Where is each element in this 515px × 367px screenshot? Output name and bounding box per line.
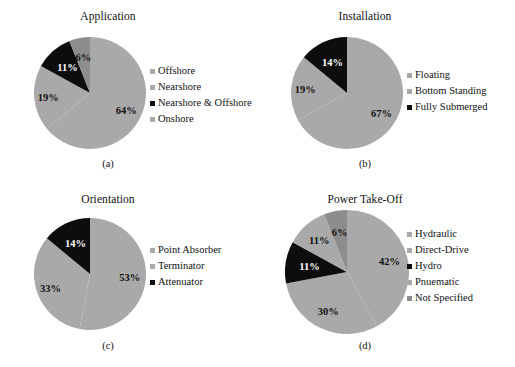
- pie-slice-label: 11%: [299, 261, 319, 272]
- pie-svg-c: 53%33%14%: [34, 217, 146, 331]
- pie-chart-c: 53%33%14%: [34, 217, 146, 331]
- legend-item-label: Nearshore: [158, 82, 201, 93]
- legend-item-label: Onshore: [158, 114, 194, 125]
- figure-grid: Application 64%19%11%6% OffshoreNearshor…: [0, 0, 515, 367]
- pie-slice-label: 14%: [322, 57, 343, 68]
- legend-item-label: Hydro: [415, 261, 442, 272]
- legend-item-label: Hydraulic: [415, 229, 457, 240]
- pie-chart-d: 42%30%11%11%6%: [285, 209, 409, 335]
- legend-swatch-icon: [407, 89, 412, 94]
- pie-slice-label: 6%: [75, 52, 91, 63]
- legend-c: Point AbsorberTerminatorAttenuator: [150, 245, 221, 288]
- legend-item[interactable]: Attenuator: [150, 277, 221, 288]
- legend-item-label: Pnuematic: [415, 277, 459, 288]
- legend-item-label: Fully Submerged: [415, 102, 487, 113]
- legend-swatch-icon: [150, 101, 155, 106]
- legend-item[interactable]: Not Specified: [407, 293, 473, 304]
- pie-slice-label: 11%: [57, 62, 77, 73]
- legend-item-label: Not Specified: [415, 293, 473, 304]
- legend-item-label: Bottom Standing: [415, 86, 486, 97]
- pie-svg-a: 64%19%11%6%: [34, 36, 146, 150]
- legend-item[interactable]: Nearshore: [150, 82, 252, 93]
- pie-panel-a: Application 64%19%11%6% OffshoreNearshor…: [0, 0, 255, 185]
- legend-item-label: Point Absorber: [158, 245, 221, 256]
- legend-item[interactable]: Bottom Standing: [407, 86, 487, 97]
- legend-swatch-icon: [150, 85, 155, 90]
- legend-swatch-icon: [407, 232, 412, 237]
- pie-chart-a: 64%19%11%6%: [34, 36, 146, 150]
- chart-caption-c: (c): [28, 340, 188, 351]
- legend-swatch-icon: [150, 280, 155, 285]
- legend-item[interactable]: Terminator: [150, 261, 221, 272]
- legend-item-label: Terminator: [158, 261, 205, 272]
- chart-caption-b: (b): [285, 158, 445, 169]
- pie-chart-b: 67%19%14%: [291, 36, 403, 150]
- pie-svg-b: 67%19%14%: [291, 36, 403, 150]
- pie-panel-b: Installation 67%19%14% FloatingBottom St…: [255, 0, 515, 185]
- chart-title-b: Installation: [285, 10, 445, 22]
- legend-item[interactable]: Offshore: [150, 66, 252, 77]
- pie-slice-label: 64%: [116, 105, 137, 116]
- chart-title-d: Power Take-Off: [285, 193, 445, 205]
- legend-swatch-icon: [407, 248, 412, 253]
- legend-swatch-icon: [150, 117, 155, 122]
- legend-item[interactable]: Direct-Drive: [407, 245, 473, 256]
- pie-panel-c: Orientation 53%33%14% Point AbsorberTerm…: [0, 185, 255, 367]
- legend-swatch-icon: [407, 264, 412, 269]
- legend-swatch-icon: [407, 105, 412, 110]
- legend-item-label: Nearshore & Offshore: [158, 98, 252, 109]
- legend-item-label: Floating: [415, 70, 450, 81]
- legend-item[interactable]: Hydro: [407, 261, 473, 272]
- chart-caption-a: (a): [28, 158, 188, 169]
- legend-item-label: Offshore: [158, 66, 195, 77]
- pie-panel-d: Power Take-Off 42%30%11%11%6% HydraulicD…: [255, 185, 515, 367]
- legend-item-label: Attenuator: [158, 277, 203, 288]
- pie-slice-label: 33%: [40, 283, 61, 294]
- pie-svg-d: 42%30%11%11%6%: [285, 209, 409, 335]
- legend-item[interactable]: Onshore: [150, 114, 252, 125]
- pie-slice-label: 6%: [332, 227, 348, 238]
- pie-slice-label: 11%: [309, 235, 329, 246]
- pie-slice-label: 30%: [318, 306, 339, 317]
- pie-slice-label: 19%: [38, 92, 59, 103]
- chart-title-c: Orientation: [28, 193, 188, 205]
- pie-slice-label: 42%: [379, 256, 400, 267]
- legend-a: OffshoreNearshoreNearshore & OffshoreOns…: [150, 66, 252, 125]
- legend-b: FloatingBottom StandingFully Submerged: [407, 70, 487, 113]
- pie-slice-label: 14%: [65, 238, 86, 249]
- legend-swatch-icon: [407, 296, 412, 301]
- legend-swatch-icon: [407, 73, 412, 78]
- legend-item[interactable]: Fully Submerged: [407, 102, 487, 113]
- legend-item[interactable]: Nearshore & Offshore: [150, 98, 252, 109]
- legend-item-label: Direct-Drive: [415, 245, 469, 256]
- legend-swatch-icon: [407, 280, 412, 285]
- pie-slice-label: 53%: [119, 272, 140, 283]
- legend-item[interactable]: Floating: [407, 70, 487, 81]
- legend-swatch-icon: [150, 264, 155, 269]
- chart-caption-d: (d): [285, 340, 445, 351]
- legend-item[interactable]: Point Absorber: [150, 245, 221, 256]
- legend-swatch-icon: [150, 248, 155, 253]
- pie-slice-label: 19%: [295, 84, 316, 95]
- legend-item[interactable]: Pnuematic: [407, 277, 473, 288]
- legend-item[interactable]: Hydraulic: [407, 229, 473, 240]
- legend-d: HydraulicDirect-DriveHydroPnuematicNot S…: [407, 229, 473, 304]
- chart-title-a: Application: [28, 10, 188, 22]
- pie-slice-label: 67%: [371, 108, 392, 119]
- legend-swatch-icon: [150, 69, 155, 74]
